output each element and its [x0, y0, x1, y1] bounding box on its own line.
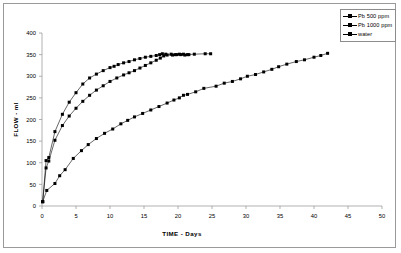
data-point-marker: [326, 52, 329, 55]
y-tick-label: 50: [30, 182, 36, 188]
x-tick-label: 0: [40, 213, 43, 219]
legend-label: water: [357, 30, 372, 39]
data-point-marker: [122, 61, 125, 64]
x-tick-label: 50: [379, 213, 385, 219]
legend-label: Pb 1000 ppm: [357, 21, 392, 30]
data-point-marker: [172, 99, 175, 102]
data-point-marker: [117, 63, 120, 66]
x-tick-label: 35: [277, 213, 283, 219]
x-tick-label: 40: [311, 213, 317, 219]
data-point-marker: [246, 75, 249, 78]
data-point-marker: [149, 108, 152, 111]
data-point-marker: [103, 132, 106, 135]
data-point-marker: [204, 52, 207, 55]
data-point-marker: [157, 105, 160, 108]
y-tick-label: 100: [26, 160, 36, 166]
data-point-marker: [215, 85, 218, 88]
data-point-marker: [113, 65, 116, 68]
data-point-marker: [72, 157, 75, 160]
y-tick-label: 0: [33, 203, 36, 209]
data-point-marker: [128, 60, 131, 63]
data-point-marker: [45, 189, 48, 192]
y-tick-label: 300: [26, 73, 36, 79]
data-point-marker: [149, 61, 152, 64]
data-point-marker: [223, 82, 226, 85]
data-point-marker: [155, 59, 158, 62]
data-point-marker: [209, 52, 212, 55]
data-point-marker: [119, 122, 122, 125]
series-line: [43, 54, 211, 202]
data-point-marker: [53, 182, 56, 185]
x-tick-label: 45: [345, 213, 351, 219]
x-tick-label: 20: [175, 213, 181, 219]
legend-item-water[interactable]: water: [343, 30, 392, 39]
data-point-marker: [126, 119, 129, 122]
data-point-marker: [109, 66, 112, 69]
data-point-marker: [158, 53, 161, 56]
legend-marker-icon: [343, 12, 357, 21]
data-point-marker: [133, 115, 136, 118]
data-point-marker: [194, 90, 197, 93]
data-point-marker: [61, 124, 64, 127]
data-point-marker: [166, 102, 169, 105]
data-point-marker: [88, 76, 91, 79]
data-point-marker: [53, 130, 56, 133]
legend-label: Pb 500 ppm: [357, 12, 389, 21]
data-point-marker: [45, 166, 48, 169]
data-point-marker: [175, 53, 178, 56]
data-point-marker: [133, 69, 136, 72]
data-point-marker: [88, 94, 91, 97]
chart-frame: 0510152025303540455005010015020025030035…: [3, 3, 396, 248]
data-point-marker: [166, 54, 169, 57]
data-point-marker: [262, 70, 265, 73]
data-point-marker: [81, 100, 84, 103]
data-point-marker: [64, 168, 67, 171]
x-tick-label: 5: [74, 213, 77, 219]
data-point-marker: [61, 113, 64, 116]
data-point-marker: [138, 57, 141, 60]
data-point-marker: [138, 67, 141, 70]
data-point-marker: [95, 89, 98, 92]
data-point-marker: [115, 76, 118, 79]
data-point-marker: [122, 73, 125, 76]
data-point-marker: [68, 115, 71, 118]
data-point-marker: [58, 174, 61, 177]
data-point-marker: [155, 54, 158, 57]
data-point-marker: [149, 55, 152, 58]
legend-marker-icon: [343, 21, 357, 30]
data-point-marker: [128, 71, 131, 74]
chart-legend: Pb 500 ppm Pb 1000 ppm water: [340, 9, 396, 42]
x-tick-label: 10: [107, 213, 113, 219]
data-point-marker: [159, 57, 162, 60]
data-point-marker: [313, 56, 316, 59]
data-point-marker: [186, 93, 189, 96]
data-point-marker: [75, 107, 78, 110]
data-point-marker: [87, 143, 90, 146]
data-point-marker: [193, 53, 196, 56]
y-tick-label: 250: [26, 95, 36, 101]
data-point-marker: [179, 53, 182, 56]
y-tick-label: 150: [26, 138, 36, 144]
legend-item-pb-500[interactable]: Pb 500 ppm: [343, 12, 392, 21]
y-tick-label: 350: [26, 52, 36, 58]
data-point-marker: [187, 53, 190, 56]
x-axis-title: TIME - Days: [162, 230, 202, 237]
data-point-marker: [231, 80, 234, 83]
legend-item-pb-1000[interactable]: Pb 1000 ppm: [343, 21, 392, 30]
y-tick-label: 400: [26, 30, 36, 36]
data-series: [41, 53, 190, 203]
data-point-marker: [182, 94, 185, 97]
data-point-marker: [178, 96, 181, 99]
data-point-marker: [171, 54, 174, 57]
x-tick-label: 15: [141, 213, 147, 219]
chart-plot-area: 0510152025303540455005010015020025030035…: [4, 4, 397, 249]
data-point-marker: [162, 54, 165, 57]
legend-marker-icon: [343, 30, 357, 39]
data-point-marker: [270, 68, 273, 71]
data-point-marker: [319, 54, 322, 57]
data-point-marker: [254, 73, 257, 76]
data-point-marker: [102, 84, 105, 87]
data-point-marker: [133, 58, 136, 61]
data-point-marker: [80, 149, 83, 152]
data-point-marker: [295, 60, 298, 63]
